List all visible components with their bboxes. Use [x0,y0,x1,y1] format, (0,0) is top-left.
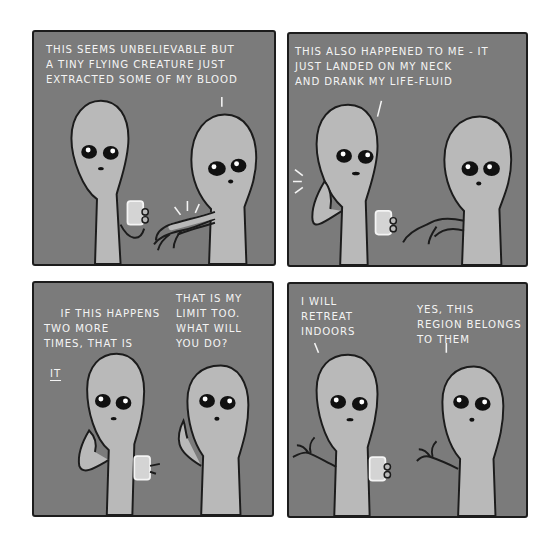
comic-panel-2: THIS ALSO HAPPENED TO ME - IT JUST LANDE… [287,32,528,267]
right-alien [154,115,256,264]
emphasis-lines-icon [293,170,303,194]
glass-icon [376,211,392,235]
speech-text-right: THAT IS MY LIMIT TOO. WHAT WILL YOU DO? [176,291,242,351]
speech-text: THIS ALSO HAPPENED TO ME - IT JUST LANDE… [295,44,489,89]
left-alien [293,355,391,516]
emphasis-word: IT [50,366,160,381]
right-alien [403,117,511,265]
comic-panel-4: I WILL RETREAT INDOORS YES, THIS REGION … [287,282,528,518]
right-alien [417,367,504,516]
speech-line: IF THIS HAPPENS TWO MORE TIMES, THAT IS [44,308,160,349]
eye-icon [231,159,247,173]
speech-text-left: I WILL RETREAT INDOORS [301,294,355,339]
emphasis-lines-icon [175,201,200,215]
speech-text-left: IF THIS HAPPENS TWO MORE TIMES, THAT IS … [44,291,160,411]
glass-icon [127,201,143,225]
eye-icon [208,161,226,176]
speech-text-right: YES, THIS REGION BELONGS TO THEM [417,302,522,347]
glass-icon [134,456,150,480]
speech-tail [378,101,382,117]
speech-tail [315,343,319,353]
comic-panel-3: IF THIS HAPPENS TWO MORE TIMES, THAT IS … [32,281,274,517]
speech-text: THIS SEEMS UNBELIEVABLE BUT A TINY FLYIN… [46,42,238,87]
comic-panel-1: THIS SEEMS UNBELIEVABLE BUT A TINY FLYIN… [32,30,276,266]
eye-icon [103,146,119,160]
glass-icon [370,457,386,481]
left-alien [293,105,396,265]
right-alien [179,366,249,515]
left-alien [71,101,148,264]
